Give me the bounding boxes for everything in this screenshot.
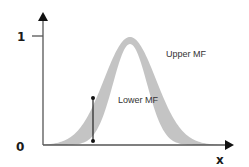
upper-mf-label: Upper MF bbox=[166, 49, 207, 59]
interval-lower-dot bbox=[91, 139, 95, 143]
y-tick-label-zero: 0 bbox=[16, 140, 24, 154]
diagram-canvas: 1 0 x Upper MF Lower MF bbox=[0, 0, 249, 167]
y-tick-label-one: 1 bbox=[17, 30, 25, 44]
x-axis-label: x bbox=[216, 153, 224, 167]
fuzzy-mf-diagram: 1 0 x Upper MF Lower MF bbox=[0, 0, 249, 167]
lower-mf-label: Lower MF bbox=[118, 95, 159, 105]
y-axis-arrow-icon bbox=[38, 12, 48, 21]
x-axis-arrow-icon bbox=[225, 140, 234, 150]
interval-upper-dot bbox=[91, 96, 95, 100]
